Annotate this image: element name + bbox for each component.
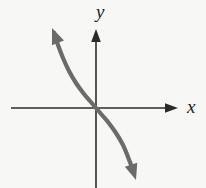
curve-end-arrowhead (125, 163, 137, 180)
curve-start-arrowhead (52, 28, 64, 45)
graph-figure: y x (0, 0, 206, 188)
graph-canvas (0, 0, 206, 188)
curve-path (54, 33, 133, 170)
cubic-curve (52, 28, 137, 180)
y-axis-label: y (96, 2, 104, 21)
x-axis-arrowhead (165, 103, 178, 113)
y-axis-arrowhead (91, 29, 101, 42)
x-axis-label: x (187, 97, 195, 116)
